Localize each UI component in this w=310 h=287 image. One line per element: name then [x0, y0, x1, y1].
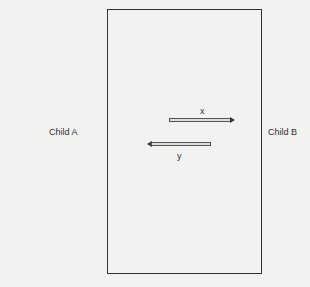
- child-b-label: Child B: [268, 127, 297, 137]
- arrow-x-label: x: [200, 106, 205, 116]
- child-a-label: Child A: [49, 127, 78, 137]
- arrow-x-shaft: [169, 118, 231, 122]
- arrow-right-icon: [230, 117, 235, 123]
- arrow-y-label: y: [177, 151, 182, 161]
- arrow-y-shaft: [151, 142, 211, 146]
